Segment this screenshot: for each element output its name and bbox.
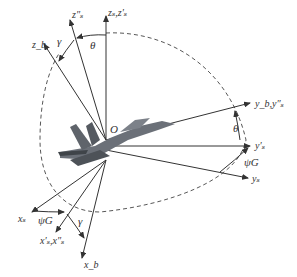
label-yb-ys-double-prime: y_b,y″ₛ <box>255 99 284 109</box>
angle-psi-right: ψG <box>244 157 259 168</box>
label-ys-prime: y′ₛ <box>255 141 265 151</box>
label-origin: O <box>110 124 118 135</box>
label-zb: z_b <box>32 40 46 50</box>
angle-arcs <box>33 35 248 238</box>
label-ys: yₛ <box>252 174 260 184</box>
angle-theta-right: θ <box>233 123 238 134</box>
label-xb: x_b <box>84 260 98 270</box>
label-zs-zs-prime: zₛ,z′ₛ <box>108 8 127 18</box>
label-zs-double-prime: z″ₛ <box>72 10 83 20</box>
angle-psi-bottom: ψG <box>38 215 53 226</box>
angle-gamma-top: γ <box>57 36 61 47</box>
label-xs-prime: x′ₛ,x″ₛ <box>40 236 64 246</box>
label-xs: xₛ <box>18 214 26 224</box>
angle-theta-top: θ <box>90 40 95 51</box>
axis-ys <box>106 150 248 178</box>
angle-gamma-bottom: γ <box>78 216 82 227</box>
coordinate-frame-diagram: zₛ,z′ₛ z″ₛ z_b y_b,y″ₛ y′ₛ yₛ xₛ x′ₛ,x″ₛ… <box>0 0 297 277</box>
axis-zs-double-prime <box>70 20 106 140</box>
